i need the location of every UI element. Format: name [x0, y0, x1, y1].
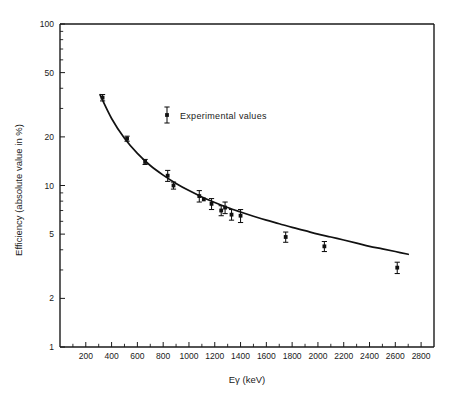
y-tick-label: 100: [40, 19, 54, 29]
x-axis-title: Eγ (keV): [229, 374, 265, 385]
data-marker: [172, 184, 176, 188]
y-tick-label: 50: [45, 68, 55, 78]
x-tick-label: 1200: [205, 351, 224, 361]
x-tick-label: 600: [130, 351, 144, 361]
x-tick-label: 1600: [257, 351, 276, 361]
x-tick-label: 400: [104, 351, 118, 361]
y-tick-label: 5: [49, 229, 54, 239]
x-tick-label: 2400: [360, 351, 379, 361]
legend-marker: [165, 113, 169, 117]
y-tick-label: 1: [49, 342, 54, 352]
x-tick-label: 1800: [283, 351, 302, 361]
data-marker: [197, 194, 201, 198]
data-marker: [284, 235, 288, 239]
x-tick-label: 2000: [308, 351, 327, 361]
data-point: [124, 136, 129, 141]
y-axis-ticks: [60, 24, 65, 347]
data-marker: [219, 209, 223, 213]
chart-canvas: 2004006008001000120014001600180020002200…: [0, 0, 456, 397]
figure-background: [0, 0, 456, 397]
legend-label: Experimental values: [180, 111, 267, 121]
x-tick-label: 2200: [334, 351, 353, 361]
x-tick-label: 2800: [412, 351, 431, 361]
y-tick-label: 20: [45, 132, 55, 142]
data-marker: [125, 137, 129, 141]
y-tick-label: 10: [45, 181, 55, 191]
data-point: [202, 198, 206, 202]
data-marker: [223, 206, 227, 210]
data-marker: [239, 214, 243, 218]
data-marker: [230, 213, 234, 217]
data-marker: [202, 198, 206, 202]
x-tick-label: 800: [156, 351, 170, 361]
x-tick-label: 1000: [180, 351, 199, 361]
data-marker: [322, 244, 326, 248]
x-tick-label: 200: [79, 351, 93, 361]
data-marker: [143, 160, 147, 164]
data-marker: [210, 202, 214, 206]
data-marker: [166, 174, 170, 178]
x-tick-label: 1400: [231, 351, 250, 361]
efficiency-calibration-figure: 2004006008001000120014001600180020002200…: [0, 0, 456, 397]
y-tick-label: 2: [49, 293, 54, 303]
y-axis-title: Efficiency (absolute value in %): [13, 124, 24, 256]
data-point: [143, 159, 148, 164]
data-marker: [395, 266, 399, 270]
data-marker: [101, 96, 105, 100]
x-tick-label: 2600: [386, 351, 405, 361]
